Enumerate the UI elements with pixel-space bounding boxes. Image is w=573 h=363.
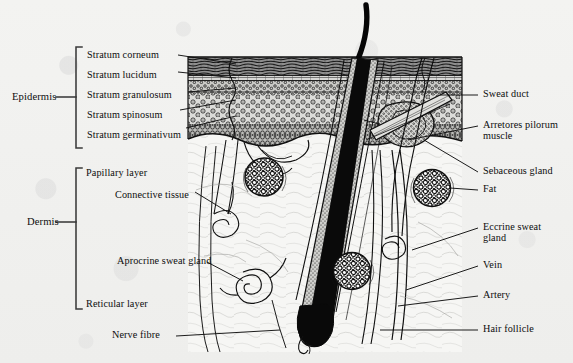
skin-diagram-figure: Epidermis Dermis Stratum corneum Stratum… xyxy=(0,0,573,363)
label-connective-tissue: Connective tissue xyxy=(115,190,189,201)
label-papillary-layer: Papillary layer xyxy=(86,168,147,179)
label-reticular-layer: Reticular layer xyxy=(86,299,148,310)
bracket-epidermis xyxy=(56,47,82,148)
label-eccrine-sweat-gland: Eccrine sweat xyxy=(483,222,541,233)
label-stratum-granulosum: Stratum granulosum xyxy=(87,90,172,101)
label-artery: Artery xyxy=(483,290,510,301)
label-fat: Fat xyxy=(483,184,496,195)
hair-shaft xyxy=(359,5,367,58)
label-eccrine-sweat-gland-line2: gland xyxy=(483,233,506,244)
label-hair-follicle: Hair follicle xyxy=(483,324,534,335)
label-arretores-pilorum-muscle: Arretores pilorum xyxy=(483,120,558,131)
label-stratum-corneum: Stratum corneum xyxy=(87,50,159,61)
label-sebaceous-gland: Sebaceous gland xyxy=(483,166,553,177)
bracket-label-dermis: Dermis xyxy=(27,217,59,228)
stratum-lucidum-layer xyxy=(186,76,464,81)
label-stratum-lucidum: Stratum lucidum xyxy=(87,70,157,81)
label-sweat-duct: Sweat duct xyxy=(483,89,529,100)
label-stratum-spinosum: Stratum spinosum xyxy=(87,110,162,121)
label-stratum-germinativum: Stratum germinativum xyxy=(87,130,181,141)
bracket-label-epidermis: Epidermis xyxy=(12,92,56,103)
label-nerve-fibre: Nerve fibre xyxy=(112,330,160,341)
label-aprocrine-sweat-gland: Aprocrine sweat gland xyxy=(117,256,211,267)
label-vein: Vein xyxy=(483,260,502,271)
label-arretores-pilorum-muscle-line2: muscle xyxy=(483,131,512,142)
bracket-dermis xyxy=(56,168,82,309)
